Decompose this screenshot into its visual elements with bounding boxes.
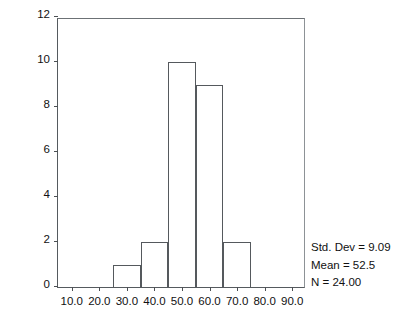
x-axis-tick-label: 50.0 [171,295,193,307]
x-axis-tick-label: 20.0 [88,295,110,307]
statistics-annotation: Std. Dev = 9.09 Mean = 52.5 N = 24.00 [311,239,391,292]
x-axis-tick-label: 40.0 [143,295,165,307]
x-axis-tick-label: 30.0 [116,295,138,307]
histogram-chart: Number of Cases 02468101210.020.030.040.… [0,0,400,324]
x-axis-tick: 90.0 [292,287,293,291]
y-axis-tick-label: 8 [44,98,50,110]
x-axis-tick-label: 80.0 [253,295,275,307]
x-axis-tick: 80.0 [265,287,266,291]
y-axis-tick: 12 [54,16,58,17]
histogram-bar [196,85,224,288]
y-axis-tick: 6 [54,151,58,152]
y-axis-tick-label: 6 [44,143,50,155]
y-axis-tick-label: 12 [37,8,50,20]
mean-text: Mean = 52.5 [311,257,391,275]
y-axis-tick-label: 2 [44,233,50,245]
y-axis-tick: 4 [54,196,58,197]
x-axis-tick-label: 90.0 [281,295,303,307]
y-axis-tick-label: 0 [44,278,50,290]
y-axis-tick: 10 [54,61,58,62]
histogram-bar [223,242,251,287]
y-axis-tick: 8 [54,106,58,107]
y-axis-tick-label: 10 [37,53,50,65]
x-axis-tick-label: 70.0 [226,295,248,307]
y-axis-tick: 0 [54,286,58,287]
x-axis-tick: 40.0 [154,287,155,291]
histogram-bar [141,242,169,287]
x-axis-tick: 50.0 [182,287,183,291]
y-axis-tick-label: 4 [44,188,50,200]
plot-area: 02468101210.020.030.040.050.060.070.080.… [57,18,305,288]
x-axis-tick: 70.0 [237,287,238,291]
x-axis-tick: 60.0 [210,287,211,291]
x-axis-tick: 10.0 [72,287,73,291]
x-axis-tick: 20.0 [99,287,100,291]
std-dev-text: Std. Dev = 9.09 [311,239,391,257]
histogram-bar [113,265,141,288]
x-axis-tick: 30.0 [127,287,128,291]
histogram-bar [168,62,196,287]
n-text: N = 24.00 [311,274,391,292]
x-axis-tick-label: 60.0 [198,295,220,307]
plot-inner: 02468101210.020.030.040.050.060.070.080.… [58,19,304,287]
y-axis-tick: 2 [54,241,58,242]
x-axis-tick-label: 10.0 [61,295,83,307]
